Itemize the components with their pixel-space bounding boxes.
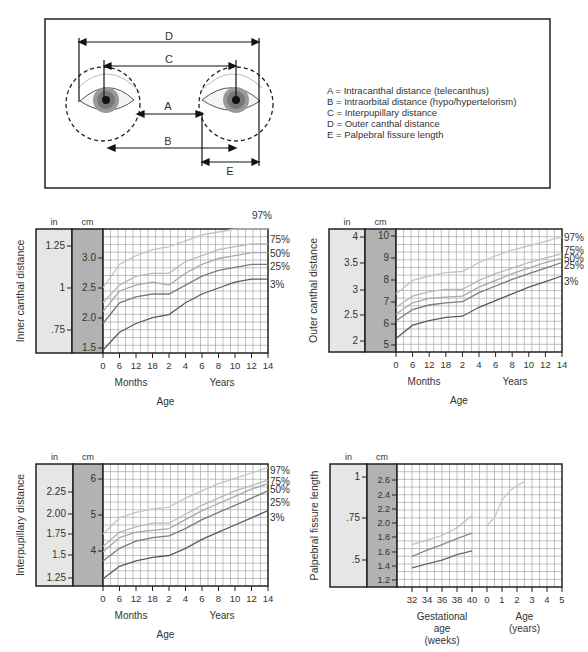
y-tick-cm: 10 (378, 230, 390, 241)
y-tick-cm: 6 (90, 473, 96, 484)
x-tick: 12 (131, 593, 142, 604)
percentile-label: 3% (270, 512, 285, 523)
x-label-age: (years) (509, 623, 540, 634)
x-tick: 12 (540, 359, 551, 370)
y-tick-in: 1.25 (46, 240, 66, 251)
x-tick: 10 (230, 360, 241, 371)
x-tick: 4 (544, 594, 549, 605)
y-axis-label: Outer canthal distance (307, 238, 319, 343)
y-tick-cm: 2.6 (377, 475, 390, 485)
y-tick-cm: 4 (90, 545, 96, 556)
x-tick: 12 (131, 360, 142, 371)
x-tick: 10 (524, 359, 535, 370)
x-tick: 34 (422, 594, 433, 605)
x-tick: 10 (230, 593, 241, 604)
y-tick-in: 4 (352, 231, 358, 242)
y-tick-in: 2.00 (47, 508, 67, 519)
y-tick-in: .75 (346, 512, 360, 523)
y-tick-cm: 1.8 (377, 532, 390, 542)
x-label-gestational: age (434, 623, 451, 634)
x-tick: 8 (216, 593, 221, 604)
x-tick: 4 (476, 359, 481, 370)
x-tick: 18 (441, 359, 452, 370)
legend-item: C = Interpupillary distance (327, 107, 437, 118)
x-tick: 5 (559, 594, 564, 605)
y-tick-cm: 1.5 (82, 342, 96, 353)
chart-panel: incm1.251.753.02.52.01.50612182468101214… (14, 210, 290, 407)
x-label-age: Age (516, 611, 534, 622)
percentile-label: 97% (252, 210, 272, 221)
x-axis-label: Age (157, 629, 175, 640)
x-tick: 6 (199, 593, 204, 604)
x-tick: 0 (393, 359, 398, 370)
unit-header-cm: cm (375, 217, 387, 227)
legend-item: D = Outer canthal distance (327, 118, 440, 129)
percentile-label: 25% (270, 261, 290, 272)
y-tick-in: 2.25 (47, 486, 67, 497)
x-tick: 4 (183, 360, 188, 371)
label-a: A (164, 100, 172, 112)
label-b: B (164, 135, 171, 147)
y-axis-label: Palpebral fissure length (308, 470, 320, 580)
y-tick-cm: 2.5 (82, 282, 96, 293)
x-label-gestational: Gestational (417, 611, 468, 622)
x-axis-label: Age (450, 395, 468, 406)
x-tick: 18 (147, 593, 158, 604)
y-tick-in: 2.5 (344, 309, 358, 320)
y-tick-in: 1 (354, 471, 360, 482)
x-tick: 32 (407, 594, 418, 605)
x-tick: 0 (100, 360, 105, 371)
percentile-label: 3% (270, 279, 285, 290)
y-tick-cm: 7 (383, 296, 389, 307)
x-tick: 1 (499, 594, 504, 605)
x-tick: 18 (147, 360, 158, 371)
x-tick: 6 (199, 360, 204, 371)
y-tick-in: 3 (352, 284, 358, 295)
unit-header-in: in (345, 452, 352, 462)
x-sublabel-months: Months (408, 376, 441, 387)
y-tick-in: .75 (51, 324, 65, 335)
y-tick-cm: 2.4 (377, 490, 390, 500)
x-tick: 36 (437, 594, 448, 605)
unit-header-in: in (50, 217, 57, 227)
legend-item: A = Intracanthal distance (telecanthus) (327, 85, 489, 96)
x-sublabel-years: Years (209, 377, 234, 388)
legend-item: B = Intraorbital distance (hypo/hypertel… (327, 96, 516, 107)
x-tick: 3 (529, 594, 534, 605)
y-tick-cm: 1.4 (377, 561, 390, 571)
x-sublabel-months: Months (115, 610, 148, 621)
x-tick: 12 (246, 593, 257, 604)
x-tick: 14 (557, 359, 568, 370)
x-tick: 6 (493, 359, 498, 370)
y-tick-cm: 2.0 (82, 312, 96, 323)
y-tick-in: 1.25 (47, 572, 67, 583)
x-tick: 2 (166, 593, 171, 604)
unit-header-in: in (51, 452, 58, 462)
y-tick-in: 2 (352, 335, 358, 346)
x-tick: 2 (514, 594, 519, 605)
x-tick: 0 (484, 594, 489, 605)
x-tick: 12 (246, 360, 257, 371)
y-axis-label: Inner canthal distance (14, 239, 26, 342)
chart-panel: incm2.252.001.751.51.2565406121824681012… (14, 452, 290, 640)
unit-header-in: in (343, 217, 350, 227)
x-tick: 14 (263, 593, 274, 604)
y-tick-in: 1 (59, 282, 65, 293)
chart-panel: incm1.75.52.62.42.22.01.81.61.41.2323436… (308, 452, 565, 646)
y-tick-cm: 1.2 (377, 575, 390, 585)
y-tick-cm: 5 (383, 339, 389, 350)
y-tick-cm: 9 (383, 252, 389, 263)
y-tick-in: .5 (352, 554, 361, 565)
x-sublabel-years: Years (502, 376, 527, 387)
x-sublabel-months: Months (115, 377, 148, 388)
label-c: C (165, 53, 173, 65)
y-axis-label: Interpupillary distance (14, 474, 26, 576)
x-tick: 8 (216, 360, 221, 371)
percentile-label: 25% (270, 497, 290, 508)
y-tick-cm: 3.0 (82, 252, 96, 263)
label-e: E (226, 165, 233, 177)
y-tick-cm: 2.0 (377, 518, 390, 528)
x-tick: 6 (117, 593, 122, 604)
x-sublabel-years: Years (209, 610, 234, 621)
x-label-gestational: (weeks) (424, 635, 459, 646)
